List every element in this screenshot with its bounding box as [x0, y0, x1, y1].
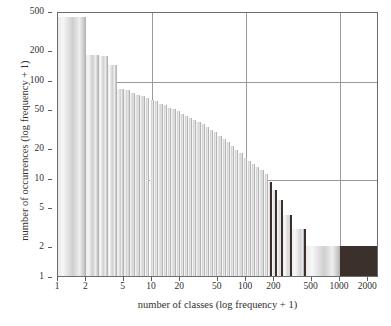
x-tick-label: 200	[253, 282, 293, 292]
bar	[283, 215, 292, 276]
y-tick-mark	[48, 81, 52, 82]
y-tick-group: 125102050100200500	[32, 12, 52, 277]
y-tick-label: 200	[30, 46, 44, 56]
y-tick-label: 1	[39, 272, 44, 282]
y-tick-mark	[48, 110, 52, 111]
y-tick-mark	[48, 277, 52, 278]
y-tick-label: 2	[39, 242, 44, 252]
plot-area	[57, 12, 378, 277]
bar	[306, 246, 341, 276]
x-tick-label: 2000	[347, 282, 387, 292]
y-tick-mark	[48, 12, 52, 13]
chart-figure: number of occurrences (log frequency + 1…	[0, 0, 391, 326]
y-tick-mark	[48, 179, 52, 180]
y-tick-mark	[48, 247, 52, 248]
x-axis-title: number of classes (log frequency + 1)	[57, 299, 378, 310]
bar-series	[58, 13, 377, 276]
y-tick-mark	[48, 51, 52, 52]
y-tick-label: 500	[30, 7, 44, 17]
y-tick-mark	[48, 149, 52, 150]
y-tick-label: 10	[35, 174, 45, 184]
bar	[86, 55, 98, 276]
y-tick-mark	[48, 208, 52, 209]
bar	[99, 56, 108, 276]
y-tick-label: 100	[30, 76, 44, 86]
y-axis: 125102050100200500	[0, 0, 57, 290]
x-tick-label: 2	[65, 282, 105, 292]
bar	[58, 17, 86, 276]
bar	[108, 65, 117, 276]
y-tick-label: 5	[39, 203, 44, 213]
y-tick-label: 20	[35, 144, 45, 154]
bar	[340, 246, 378, 276]
y-tick-label: 50	[35, 105, 45, 115]
bar	[292, 229, 305, 276]
x-axis: 12510205010020050010002000	[57, 277, 379, 301]
bar	[117, 89, 124, 276]
x-tick-label: 20	[159, 282, 199, 292]
